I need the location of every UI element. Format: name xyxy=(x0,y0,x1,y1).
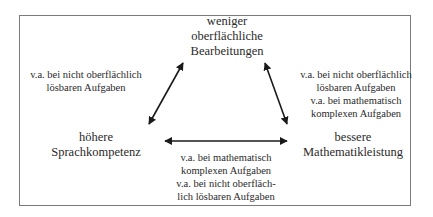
edge-label-right-line-4: komplexen Aufgaben xyxy=(286,107,426,120)
node-right-math-performance: bessere Mathematikleistung xyxy=(293,130,413,160)
node-left-line-1: höhere xyxy=(36,130,156,145)
edge-label-left-line-2: lösbaren Aufgaben xyxy=(16,81,156,94)
node-top-line-2: oberflächliche xyxy=(167,29,287,44)
node-right-line-2: Mathematikleistung xyxy=(293,145,413,160)
edge-label-right-line-3: v.a. bei mathematisch xyxy=(286,94,426,107)
edge-label-bottom: v.a. bei mathematisch komplexen Aufgaben… xyxy=(156,151,296,203)
node-top-line-3: Bearbeitungen xyxy=(167,44,287,59)
edge-label-right-line-1: v.a. bei nicht oberflächlich xyxy=(286,68,426,81)
arrow-top-right xyxy=(265,63,287,124)
edge-label-bottom-line-3: v.a. bei nicht oberfläch- xyxy=(156,177,296,190)
edge-label-left-line-1: v.a. bei nicht oberflächlich xyxy=(16,68,156,81)
node-right-line-1: bessere xyxy=(293,130,413,145)
edge-label-left: v.a. bei nicht oberflächlich lösbaren Au… xyxy=(16,68,156,94)
edge-label-right-line-2: lösbaren Aufgaben xyxy=(286,81,426,94)
node-left-line-2: Sprachkompetenz xyxy=(36,145,156,160)
edge-label-bottom-line-1: v.a. bei mathematisch xyxy=(156,151,296,164)
node-left-language-competence: höhere Sprachkompetenz xyxy=(36,130,156,160)
edge-label-right: v.a. bei nicht oberflächlich lösbaren Au… xyxy=(286,68,426,120)
node-top-fewer-superficial-processing: weniger oberflächliche Bearbeitungen xyxy=(167,14,287,59)
edge-label-bottom-line-4: lich lösbaren Aufgaben xyxy=(156,190,296,203)
node-top-line-1: weniger xyxy=(167,14,287,29)
edge-label-bottom-line-2: komplexen Aufgaben xyxy=(156,164,296,177)
